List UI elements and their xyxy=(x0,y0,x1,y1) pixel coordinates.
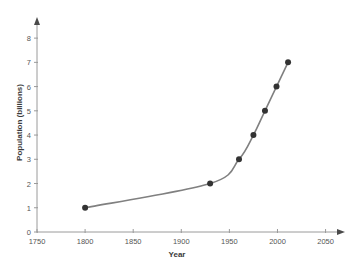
x-tick-label-1900: 1900 xyxy=(173,237,190,246)
series-line-world-population xyxy=(85,62,288,207)
y-tick-label-1: 1 xyxy=(17,203,31,212)
data-point-1999-6 xyxy=(274,84,280,90)
y-tick-label-8: 8 xyxy=(17,34,31,43)
x-axis-title: Year xyxy=(0,250,354,259)
y-tick-label-0: 0 xyxy=(17,228,31,237)
data-point-1975-4 xyxy=(250,132,256,138)
x-tick-label-2000: 2000 xyxy=(269,237,286,246)
x-axis-arrow-icon xyxy=(337,229,345,235)
data-point-1987-5 xyxy=(262,108,268,114)
data-point-2011-7 xyxy=(285,59,291,65)
population-growth-chart: 1750180018501900195020002050 012345678 P… xyxy=(0,0,354,269)
x-tick-label-1750: 1750 xyxy=(29,237,46,246)
data-point-1930-2 xyxy=(207,181,213,187)
y-axis-title: Population (billions) xyxy=(15,48,24,198)
data-point-1800-1 xyxy=(82,205,88,211)
y-axis-arrow-icon xyxy=(34,17,40,25)
series-markers xyxy=(82,59,291,210)
x-tick-label-2050: 2050 xyxy=(317,237,334,246)
x-tick-label-1950: 1950 xyxy=(221,237,238,246)
data-point-1960-3 xyxy=(236,156,242,162)
chart-canvas xyxy=(0,0,354,269)
x-tick-label-1800: 1800 xyxy=(77,237,94,246)
x-tick-label-1850: 1850 xyxy=(125,237,142,246)
